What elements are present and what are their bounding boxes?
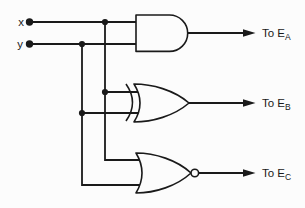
arrowhead-eb: [243, 99, 256, 107]
output-label-eb-text: To E: [262, 97, 285, 109]
output-label-eb-subscript: B: [285, 102, 291, 112]
output-label-ec-subscript: C: [285, 172, 291, 182]
and-gate: [136, 15, 188, 51]
output-label-ea-text: To E: [262, 27, 285, 39]
junction-dot-x-top: [102, 19, 108, 25]
output-label-ec: To EC: [262, 167, 291, 182]
input-label-y: y: [17, 38, 23, 50]
input-terminal-x: [26, 18, 33, 25]
input-terminal-y: [26, 40, 33, 47]
arrowhead-ea: [243, 29, 256, 37]
junction-dot-x-xor: [102, 89, 108, 95]
output-label-eb: To EB: [262, 97, 291, 112]
output-label-ec-text: To E: [262, 167, 285, 179]
junction-dot-y-top: [79, 41, 85, 47]
nor-gate: [136, 153, 191, 193]
xor-gate-extra-arc: [126, 84, 133, 121]
logic-circuit-diagram: x y To EA To EB To EC: [0, 0, 305, 208]
wire-y-branch-vertical: [82, 44, 143, 185]
output-label-ea-subscript: A: [285, 32, 291, 42]
input-label-x: x: [18, 16, 24, 28]
junction-dot-y-xor: [79, 110, 85, 116]
arrowhead-ec: [243, 169, 256, 177]
output-label-ea: To EA: [262, 27, 291, 42]
xor-gate: [134, 84, 189, 122]
nor-inverter-bubble: [191, 169, 199, 177]
